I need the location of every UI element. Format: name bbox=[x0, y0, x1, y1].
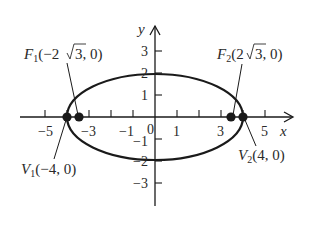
ellipse-diagram: −5 −3 −1 0 1 3 5 x y 3 2 1 −1 −2 −3 F1(−… bbox=[0, 0, 311, 228]
y-axis-label: y bbox=[136, 21, 145, 37]
x-tick-label: −5 bbox=[38, 124, 53, 139]
vertex-v2-label: V2(4, 0) bbox=[238, 147, 285, 165]
y-axis bbox=[150, 26, 162, 206]
x-tick-label: 5 bbox=[261, 124, 268, 139]
y-tick-label: −3 bbox=[133, 176, 148, 191]
y-tick-label: 2 bbox=[141, 66, 148, 81]
x-origin-label: 0 bbox=[147, 122, 154, 137]
x-axis-label: x bbox=[279, 123, 287, 139]
vertex-v1-dot bbox=[62, 112, 71, 121]
y-tick-label: 3 bbox=[141, 44, 148, 59]
svg-text:F1(−2: F1(−2 bbox=[23, 46, 59, 64]
x-tick-label: −1 bbox=[119, 124, 134, 139]
focus-f2-dot bbox=[226, 112, 235, 121]
x-tick-label: −3 bbox=[81, 124, 96, 139]
y-tick-label: −1 bbox=[133, 134, 148, 149]
vertex-v2-dot bbox=[238, 112, 247, 121]
x-tick-label: 1 bbox=[173, 124, 180, 139]
x-axis bbox=[20, 110, 293, 122]
svg-text:3, 0): 3, 0) bbox=[255, 46, 283, 63]
svg-text:F2(2: F2(2 bbox=[216, 46, 244, 64]
v2-leader-line bbox=[245, 120, 256, 146]
x-tick-label: 3 bbox=[217, 124, 224, 139]
focus-f1-label: F1(−2 3, 0) bbox=[23, 44, 103, 64]
focus-f1-dot bbox=[74, 112, 83, 121]
vertex-v1-label: V1(−4, 0) bbox=[21, 161, 76, 179]
svg-text:3, 0): 3, 0) bbox=[75, 46, 103, 63]
v1-leader-line bbox=[54, 120, 66, 159]
focus-f2-label: F2(2 3, 0) bbox=[216, 44, 283, 64]
y-tick-label: 1 bbox=[141, 88, 148, 103]
y-tick-label: −2 bbox=[133, 154, 148, 169]
